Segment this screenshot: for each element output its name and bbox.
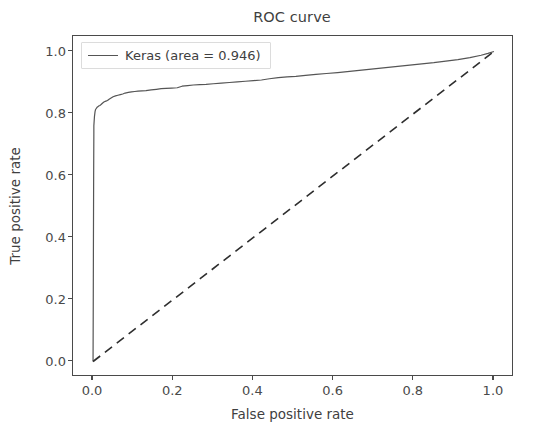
y-axis-label: True positive rate: [6, 35, 24, 376]
x-tick-mark: [412, 376, 413, 380]
x-tick-label: 0.0: [82, 383, 103, 398]
y-tick-mark: [68, 50, 72, 51]
series-layer: [93, 52, 494, 362]
x-axis-label-text: False positive rate: [231, 406, 354, 422]
x-tick-label: 0.4: [242, 383, 263, 398]
y-tick-label: 0.2: [45, 291, 66, 306]
x-tick-label: 1.0: [483, 383, 504, 398]
legend: Keras (area = 0.946): [81, 42, 271, 69]
y-tick-mark: [68, 174, 72, 175]
x-tick-label: 0.2: [162, 383, 183, 398]
y-tick-label: 0.4: [45, 229, 66, 244]
x-tick-mark: [492, 376, 493, 380]
y-tick-mark: [68, 112, 72, 113]
y-tick-label: 1.0: [45, 43, 66, 58]
plot-area: Keras (area = 0.946): [72, 35, 513, 376]
x-tick-label: 0.6: [322, 383, 343, 398]
x-tick-mark: [332, 376, 333, 380]
y-tick-mark: [68, 236, 72, 237]
y-tick-label: 0.6: [45, 167, 66, 182]
x-tick-label: 0.8: [402, 383, 423, 398]
y-tick-label: 0.0: [45, 353, 66, 368]
x-tick-mark: [252, 376, 253, 380]
chart-title: ROC curve: [0, 9, 540, 25]
roc-curve-figure: ROC curve True positive rate False posit…: [0, 0, 540, 438]
chart-title-text: ROC curve: [253, 9, 331, 25]
legend-label-keras: Keras (area = 0.946): [125, 48, 261, 63]
x-axis-label: False positive rate: [72, 406, 513, 422]
y-tick-label: 0.8: [45, 105, 66, 120]
x-tick-mark: [172, 376, 173, 380]
y-axis-label-text: True positive rate: [7, 147, 23, 265]
plot-canvas: [73, 36, 514, 377]
legend-line-swatch: [88, 55, 118, 57]
y-tick-mark: [68, 360, 72, 361]
chance-diagonal-line: [93, 52, 494, 362]
y-tick-mark: [68, 298, 72, 299]
x-tick-mark: [91, 376, 92, 380]
